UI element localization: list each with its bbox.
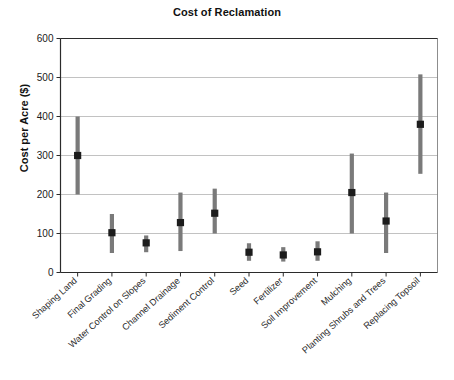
- y-tick-label: 300: [37, 150, 54, 161]
- data-point-marker: [280, 251, 287, 258]
- data-point-marker: [314, 248, 321, 255]
- data-point-marker: [177, 219, 184, 226]
- y-axis-ticks: 0100200300400500600: [37, 33, 61, 278]
- data-point-marker: [245, 249, 252, 256]
- data-point-marker: [348, 189, 355, 196]
- x-tick-label: Fertilizer: [252, 276, 285, 307]
- data-point-marker: [143, 239, 150, 246]
- x-tick-label: Mulching: [319, 276, 353, 308]
- data-point-marker: [417, 121, 424, 128]
- data-point-marker: [382, 217, 389, 224]
- data-point-marker: [74, 152, 81, 159]
- y-tick-label: 0: [48, 267, 54, 278]
- y-tick-label: 600: [37, 33, 54, 44]
- gridlines: [61, 39, 438, 234]
- data-point-marker: [211, 210, 218, 217]
- y-tick-label: 500: [37, 72, 54, 83]
- x-tick-label: Channel Drainage: [120, 276, 182, 333]
- x-axis-labels: Shaping LandFinal GradingWater Control o…: [30, 275, 422, 355]
- y-tick-label: 400: [37, 111, 54, 122]
- y-tick-label: 200: [37, 189, 54, 200]
- data-point-marker: [108, 229, 115, 236]
- plot-area: 0100200300400500600 Shaping LandFinal Gr…: [0, 0, 454, 380]
- x-tick-label: Seed: [228, 276, 251, 298]
- y-tick-label: 100: [37, 228, 54, 239]
- chart-container: Cost of Reclamation Cost per Acre ($) 01…: [0, 0, 454, 380]
